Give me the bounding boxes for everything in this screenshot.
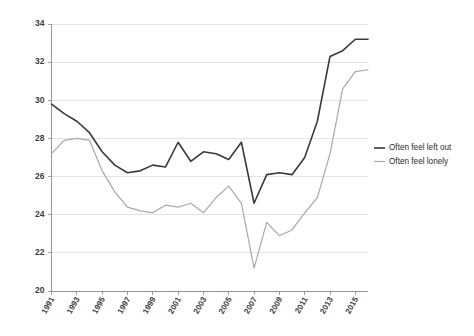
x-tick-label: 1993 bbox=[65, 295, 82, 315]
x-tick-label: 2009 bbox=[268, 295, 285, 315]
y-tick-label: 24 bbox=[35, 209, 45, 219]
x-tick-label: 2007 bbox=[242, 295, 259, 315]
y-tick-label: 30 bbox=[35, 95, 45, 105]
gridlines-group bbox=[52, 24, 369, 291]
series-line-1 bbox=[52, 39, 369, 203]
chart-legend: Often feel left outOften feel lonely bbox=[374, 143, 452, 166]
series-group bbox=[52, 39, 369, 268]
axes-group bbox=[52, 24, 369, 291]
y-axis-ticks: 2022242628303234 bbox=[35, 18, 51, 295]
y-tick-label: 20 bbox=[35, 285, 45, 295]
series-line-2 bbox=[52, 70, 369, 268]
line-chart: 2022242628303234 19911993199519971999200… bbox=[0, 0, 474, 336]
x-tick-label: 1991 bbox=[40, 295, 57, 315]
y-tick-label: 32 bbox=[35, 56, 45, 66]
legend-label-2: Often feel lonely bbox=[389, 157, 449, 166]
x-tick-label: 1995 bbox=[90, 295, 107, 315]
x-tick-label: 2001 bbox=[166, 295, 183, 315]
y-tick-label: 26 bbox=[35, 171, 45, 181]
x-tick-label: 2015 bbox=[344, 295, 361, 315]
y-tick-label: 22 bbox=[35, 247, 45, 257]
x-tick-label: 1999 bbox=[141, 295, 158, 315]
x-tick-label: 2011 bbox=[293, 295, 310, 315]
y-tick-label: 28 bbox=[35, 133, 45, 143]
x-tick-label: 2013 bbox=[318, 295, 335, 315]
chart-canvas: 2022242628303234 19911993199519971999200… bbox=[0, 0, 474, 336]
x-tick-label: 2005 bbox=[217, 295, 234, 315]
x-tick-label: 1997 bbox=[116, 295, 133, 315]
x-tick-label: 2003 bbox=[192, 295, 209, 315]
y-tick-label: 34 bbox=[35, 18, 45, 28]
x-axis-ticks: 1991199319951997199920012003200520072009… bbox=[40, 291, 361, 315]
legend-label-1: Often feel left out bbox=[389, 143, 452, 152]
